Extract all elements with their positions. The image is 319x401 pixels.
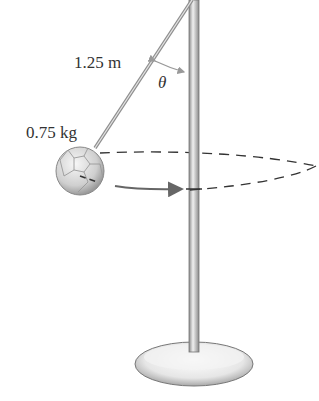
rope-highlight xyxy=(95,0,192,148)
angle-arc xyxy=(155,61,184,72)
orbit-path-back xyxy=(100,152,316,166)
angle-label: θ xyxy=(158,73,166,92)
length-label: 1.25 m xyxy=(74,53,121,72)
pole xyxy=(189,0,199,352)
soccer-ball xyxy=(56,147,104,195)
motion-arrow xyxy=(115,186,180,189)
conical-pendulum-diagram: 1.25 m θ 0.75 kg xyxy=(0,0,319,401)
orbit-path-front xyxy=(190,166,316,190)
mass-label: 0.75 kg xyxy=(26,123,78,142)
